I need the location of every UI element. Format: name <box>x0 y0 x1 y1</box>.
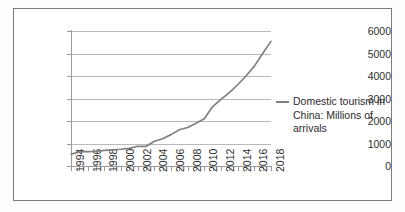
y-tick-label-4000: 4000 <box>351 71 391 81</box>
legend-line-marker <box>276 101 289 103</box>
y-tick-mark <box>67 121 71 122</box>
x-tick-label-2002: 2002 <box>142 149 152 172</box>
legend: Domestic tourism in China: Millions of a… <box>276 95 391 136</box>
x-tick-label-2016: 2016 <box>258 149 268 172</box>
x-tick-label-1998: 1998 <box>108 149 118 172</box>
y-tick-mark <box>67 99 71 100</box>
x-tick-mark <box>71 167 72 171</box>
x-tick-mark <box>88 167 89 171</box>
x-tick-mark <box>154 167 155 171</box>
x-tick-mark <box>221 167 222 171</box>
x-tick-label-1994: 1994 <box>75 149 85 172</box>
x-tick-label-2010: 2010 <box>208 149 218 172</box>
gridline-6000 <box>71 31 271 32</box>
y-tick-label-5000: 5000 <box>351 49 391 59</box>
y-tick-mark <box>67 54 71 55</box>
legend-label: Domestic tourism in China: Millions of a… <box>293 95 391 136</box>
x-tick-label-1996: 1996 <box>92 149 102 172</box>
gridline-1000 <box>71 144 271 145</box>
y-tick-label-6000: 6000 <box>351 26 391 36</box>
x-tick-label-2014: 2014 <box>242 149 252 172</box>
x-tick-mark <box>121 167 122 171</box>
y-axis-line <box>71 30 72 167</box>
y-tick-label-0: 0 <box>351 161 391 171</box>
gridline-3000 <box>71 99 271 100</box>
x-tick-mark <box>238 167 239 171</box>
x-tick-mark <box>104 167 105 171</box>
gridline-4000 <box>71 76 271 77</box>
y-tick-label-1000: 1000 <box>351 139 391 149</box>
x-tick-mark <box>138 167 139 171</box>
gridline-5000 <box>71 54 271 55</box>
x-tick-mark <box>271 167 272 171</box>
y-tick-mark <box>67 76 71 77</box>
y-tick-mark <box>67 144 71 145</box>
y-tick-mark <box>67 31 71 32</box>
x-tick-label-2006: 2006 <box>175 149 185 172</box>
x-tick-mark <box>204 167 205 171</box>
chart-frame: 6000 5000 4000 3000 2000 1000 0 1994 199… <box>13 8 392 201</box>
x-tick-mark <box>254 167 255 171</box>
gridline-2000 <box>71 121 271 122</box>
chart-figure: 6000 5000 4000 3000 2000 1000 0 1994 199… <box>0 0 405 212</box>
x-tick-label-2018: 2018 <box>275 149 285 172</box>
plot-area <box>71 31 271 166</box>
x-tick-label-2000: 2000 <box>125 149 135 172</box>
x-tick-label-2004: 2004 <box>158 149 168 172</box>
x-tick-label-2012: 2012 <box>225 149 235 172</box>
x-tick-mark <box>188 167 189 171</box>
x-tick-label-2008: 2008 <box>192 149 202 172</box>
x-tick-mark <box>171 167 172 171</box>
